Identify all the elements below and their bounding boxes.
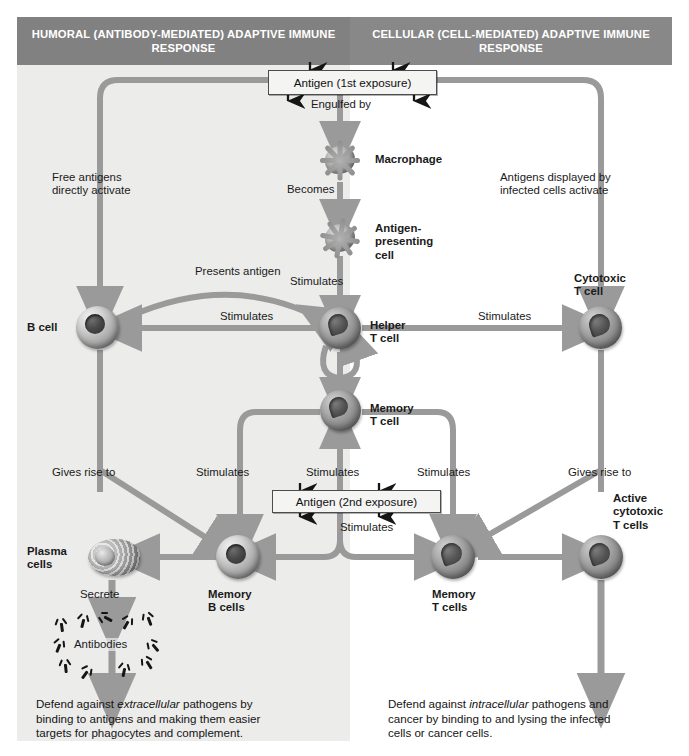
helper-t-cell-graphic (319, 307, 361, 349)
label-engulfed-by: Engulfed by (295, 98, 387, 111)
caption-cellular-pre: Defend against (388, 697, 469, 710)
active-cytotoxic-t-cells-graphic (579, 535, 623, 579)
label-gives-rise-to-right: Gives rise to (568, 466, 631, 479)
label-cytotoxic-t-cell: Cytotoxic T cell (574, 272, 626, 299)
b-cell-nucleus (85, 314, 105, 334)
label-stimulates-b: Stimulates (220, 310, 273, 323)
label-memory-t-cell-mid: Memory T cell (370, 402, 414, 429)
plasma-cell-nucleus (95, 547, 115, 566)
antibody-icon (53, 616, 70, 633)
label-secrete: Secrete (80, 588, 119, 601)
label-helper-t-cell: Helper T cell (370, 319, 405, 346)
memory-t-cells-graphic (431, 535, 475, 579)
diagram-canvas: HUMORAL (ANTIBODY-MEDIATED) ADAPTIVE IMM… (0, 0, 689, 756)
memory-b-cells-graphic (216, 535, 260, 579)
antigen-first-exposure-box[interactable]: Antigen (1st exposure) (268, 70, 437, 95)
memory-b-nucleus (226, 544, 246, 564)
label-gives-rise-to-left: Gives rise to (52, 466, 115, 479)
label-memory-b-cells: Memory B cells (208, 588, 252, 615)
label-stimulates-down: Stimulates (340, 521, 393, 534)
active-cytotoxic-nucleus (586, 540, 612, 566)
label-presents-antigen: Presents antigen (195, 265, 281, 278)
label-memory-t-cells: Memory T cells (432, 588, 476, 615)
macrophage-cell (312, 134, 368, 186)
label-stimulates-cytotoxic: Stimulates (478, 310, 531, 323)
label-stimulates-apc: Stimulates (290, 275, 343, 288)
helper-t-nucleus (325, 311, 350, 336)
cytotoxic-t-cell-graphic (579, 306, 622, 349)
label-active-cytotoxic-t-cells: Active cytotoxic T cells (613, 492, 663, 532)
label-stimulates-memory-t: Stimulates (417, 466, 470, 479)
antigen-second-exposure-box[interactable]: Antigen (2nd exposure) (272, 490, 441, 513)
label-antibodies: Antibodies (74, 638, 127, 651)
memory-t-mid-nucleus (327, 395, 351, 419)
caption-humoral: Defend against extracellular pathogens b… (36, 697, 336, 741)
plasma-cells-graphic (88, 539, 140, 576)
memory-t-nucleus (438, 540, 464, 566)
caption-humoral-pre: Defend against (36, 697, 117, 710)
label-stimulates-memory-b: Stimulates (196, 466, 249, 479)
label-free-antigens: Free antigens directly activate (52, 171, 131, 198)
label-antigen-presenting-cell: Antigen- presenting cell (375, 222, 433, 262)
label-macrophage: Macrophage (375, 153, 442, 166)
label-plasma-cells: Plasma cells (27, 545, 67, 572)
label-antigens-displayed: Antigens displayed by infected cells act… (500, 171, 611, 198)
caption-cellular: Defend against intracellular pathogens a… (388, 697, 688, 741)
antibody-icon (116, 661, 134, 679)
label-becomes: Becomes (287, 183, 334, 196)
antigen-presenting-cell (312, 212, 368, 264)
memory-t-cell-mid-graphic (320, 390, 361, 431)
label-b-cell: B cell (27, 321, 57, 334)
cytotoxic-t-nucleus (586, 311, 612, 337)
antibody-icon (57, 657, 73, 673)
label-stimulates-up: Stimulates (306, 466, 359, 479)
caption-cellular-emphasis: intracellular (469, 697, 528, 710)
caption-humoral-emphasis: extracellular (117, 697, 180, 710)
b-cell-graphic (76, 306, 119, 349)
